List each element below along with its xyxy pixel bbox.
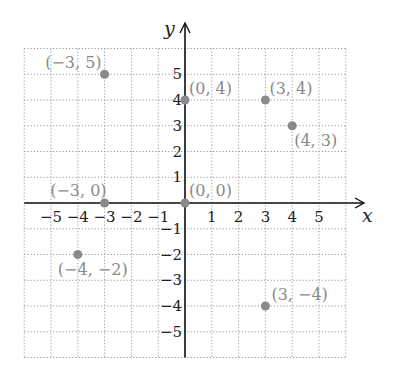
y-tick-label: 5 bbox=[172, 65, 182, 83]
x-axis-label: x bbox=[362, 204, 373, 226]
data-point bbox=[288, 121, 297, 130]
point-label: (4, 3) bbox=[294, 131, 337, 150]
y-tick-label: −5 bbox=[160, 323, 182, 341]
x-tick-label: 4 bbox=[287, 208, 297, 226]
point-label: (3, 4) bbox=[269, 79, 312, 98]
point-label: (−3, 0) bbox=[50, 181, 106, 200]
y-tick-label: −1 bbox=[160, 220, 182, 238]
y-tick-label: 3 bbox=[172, 117, 182, 135]
x-tick-label: 1 bbox=[207, 208, 217, 226]
x-tick-label: −3 bbox=[94, 208, 116, 226]
x-tick-label: −2 bbox=[120, 208, 142, 226]
x-tick-label: 5 bbox=[314, 208, 324, 226]
point-label: (0, 0) bbox=[189, 181, 232, 200]
points: (−3, 5)(0, 4)(3, 4)(4, 3)(−3, 0)(0, 0)(−… bbox=[45, 53, 337, 310]
y-tick-label: −2 bbox=[160, 246, 182, 264]
x-tick-label: 3 bbox=[261, 208, 271, 226]
data-point bbox=[73, 250, 82, 259]
x-tick-label: −4 bbox=[67, 208, 89, 226]
data-point bbox=[261, 302, 270, 311]
point-label: (−4, −2) bbox=[58, 260, 128, 279]
y-tick-label: −4 bbox=[160, 297, 182, 315]
x-tick-label: 2 bbox=[234, 208, 244, 226]
y-tick-label: 1 bbox=[172, 168, 182, 186]
x-tick-label: −5 bbox=[40, 208, 62, 226]
coordinate-plane: xy −5−4−3−2−11234554321−1−2−3−4−5 (−3, 5… bbox=[0, 0, 396, 371]
y-tick-label: −3 bbox=[160, 271, 182, 289]
y-axis-label: y bbox=[163, 17, 175, 39]
point-label: (0, 4) bbox=[189, 79, 232, 98]
point-label: (3, −4) bbox=[271, 285, 327, 304]
y-tick-label: 2 bbox=[172, 143, 182, 161]
point-label: (−3, 5) bbox=[45, 53, 101, 72]
